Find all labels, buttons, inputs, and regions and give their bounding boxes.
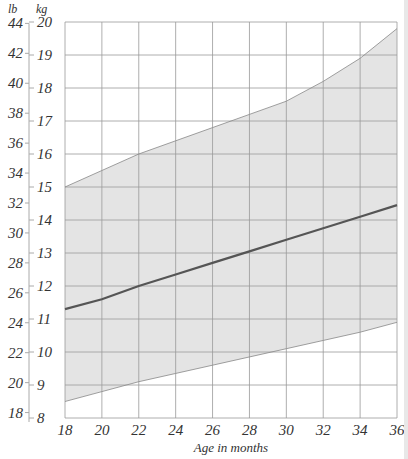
- range-band-fill: [65, 29, 397, 402]
- page-edge: [404, 0, 408, 459]
- x-tick-label: 32: [315, 422, 332, 438]
- lb-tick-label: 36: [7, 135, 24, 151]
- kg-tick-label: 8: [37, 410, 45, 426]
- x-tick-label: 22: [131, 422, 147, 438]
- lb-tick-label: 42: [8, 45, 24, 61]
- kg-tick-label: 13: [37, 245, 52, 261]
- kg-tick-label: 15: [37, 179, 53, 195]
- x-tick-label: 30: [278, 422, 295, 438]
- x-tick-label: 26: [205, 422, 221, 438]
- lb-tick-label: 32: [7, 195, 24, 211]
- x-tick-label: 20: [94, 422, 110, 438]
- x-tick-label: 36: [389, 422, 406, 438]
- x-tick-label: 18: [58, 422, 74, 438]
- kg-tick-label: 17: [37, 113, 54, 129]
- kg-tick-label: 14: [37, 212, 53, 228]
- normal-range-band: [65, 29, 397, 402]
- lb-unit-label: lb: [8, 2, 17, 16]
- lb-tick-label: 28: [8, 255, 24, 271]
- lb-tick-label: 20: [8, 375, 24, 391]
- lb-tick-label: 38: [7, 105, 24, 121]
- kg-tick-label: 18: [37, 80, 53, 96]
- lb-tick-label: 40: [8, 75, 24, 91]
- lb-tick-label: 44: [8, 15, 24, 31]
- x-axis-label: Age in months: [193, 440, 268, 455]
- x-tick-label: 28: [242, 422, 258, 438]
- lb-tick-label: 22: [8, 345, 24, 361]
- kg-tick-label: 9: [37, 377, 45, 393]
- kg-tick-label: 10: [37, 344, 53, 360]
- lb-tick-label: 30: [7, 225, 24, 241]
- kg-tick-label: 20: [37, 14, 53, 30]
- x-tick-label: 24: [168, 422, 184, 438]
- lb-tick-label: 34: [7, 165, 24, 181]
- lb-tick-label: 26: [8, 285, 24, 301]
- kg-tick-label: 19: [37, 47, 53, 63]
- lb-tick-label: 18: [8, 405, 24, 421]
- kg-unit-label: kg: [36, 2, 47, 16]
- growth-chart: 1820222426283032343638404244891011121314…: [0, 0, 408, 459]
- lb-tick-label: 24: [8, 315, 24, 331]
- kg-tick-label: 11: [37, 311, 51, 327]
- kg-tick-label: 16: [37, 146, 53, 162]
- kg-tick-label: 12: [37, 278, 53, 294]
- x-tick-label: 34: [352, 422, 369, 438]
